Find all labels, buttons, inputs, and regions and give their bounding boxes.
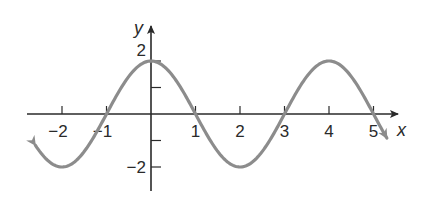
- x-axis-label: x: [396, 120, 407, 140]
- y-tick-label: 2: [137, 41, 146, 60]
- y-axis-label: y: [132, 18, 144, 38]
- x-tick-label: −2: [48, 122, 67, 141]
- cosine-graph: −2−112345 2−2 x y: [0, 0, 427, 197]
- x-tick-label: 1: [191, 122, 200, 141]
- y-tick-label: −2: [127, 158, 146, 177]
- x-tick-label: 2: [235, 122, 244, 141]
- x-tick-label: 4: [324, 122, 333, 141]
- x-tick-label: 5: [369, 122, 378, 141]
- x-tick-label: 3: [280, 122, 289, 141]
